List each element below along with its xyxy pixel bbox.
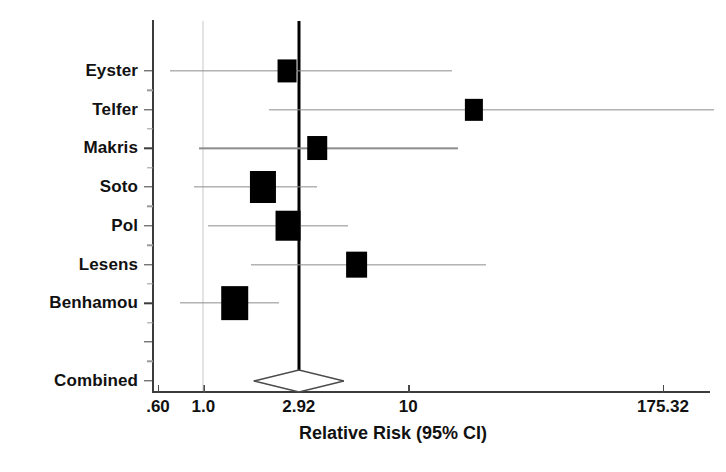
y-axis-tick [144,264,153,265]
y-axis-minor-tick [147,283,153,284]
study-label-benhamou: Benhamou [49,293,138,313]
confidence-interval-line [269,109,713,110]
x-axis-title-text: Relative Risk (95% CI) [299,423,487,444]
study-estimate-marker [276,211,301,242]
y-axis-tick [144,225,153,226]
y-axis-tick [144,148,153,149]
x-axis-tick-label: 175.32 [637,397,689,417]
y-axis-minor-tick [147,128,153,129]
study-label-lesens: Lesens [79,255,138,275]
forest-plot: EysterTelferMakrisSotoPolLesensBenhamouC… [0,0,726,472]
x-axis-tick-label: 2.92 [282,397,315,417]
combined-estimate-diamond [252,368,346,394]
x-axis-tick-label: 1.0 [192,397,216,417]
y-axis-minor-tick [147,244,153,245]
study-estimate-marker [221,286,249,320]
y-axis-minor-tick [147,167,153,168]
study-label-eyster: Eyster [85,61,138,81]
x-axis-line [152,391,710,393]
x-axis-tick [158,385,159,393]
x-axis-tick [408,385,409,393]
y-axis-tick [144,109,153,110]
study-label-soto: Soto [100,177,138,197]
study-estimate-marker [277,59,296,82]
y-axis-minor-tick [147,361,153,362]
confidence-interval-line [170,70,452,71]
study-label-telfer: Telfer [92,100,138,120]
y-axis-minor-tick [147,206,153,207]
confidence-interval-line [251,264,486,265]
study-estimate-marker [250,171,276,203]
x-axis-tick-label: 10 [399,397,418,417]
y-axis-minor-tick [147,322,153,323]
study-estimate-marker [308,136,328,160]
study-label-column: EysterTelferMakrisSotoPolLesensBenhamouC… [0,0,146,472]
study-estimate-marker [465,99,483,121]
null-reference-line [203,21,204,391]
study-label-combined: Combined [54,371,138,391]
y-axis-tick [144,70,153,71]
y-axis-tick [144,380,153,381]
study-label-makris: Makris [84,138,138,158]
confidence-interval-line [199,148,458,149]
x-axis-title: Relative Risk (95% CI) [0,423,726,444]
study-estimate-marker [346,251,368,278]
y-axis-tick [144,186,153,187]
x-axis-tick [663,385,664,393]
y-axis-tick [144,302,153,303]
x-axis-tick-label: .60 [146,397,170,417]
study-label-pol: Pol [111,216,138,236]
y-axis-minor-tick [147,90,153,91]
y-axis-tick [144,341,153,342]
pooled-estimate-reference-line [297,21,300,389]
